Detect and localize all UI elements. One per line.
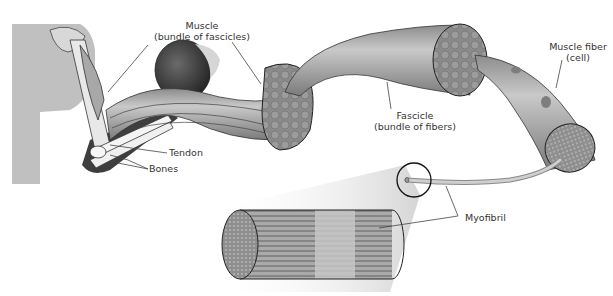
muscle-fiber-label: Muscle fiber (cell) (545, 41, 611, 63)
muscle-label-line1: Muscle (147, 20, 257, 31)
muscle-fiber-illustration (475, 55, 602, 179)
myofibril-label: Myofibril (465, 212, 506, 223)
muscle-fiber-label-line2: (cell) (545, 52, 611, 63)
muscle-label: Muscle (bundle of fascicles) (147, 20, 257, 42)
muscle-structure-diagram: Muscle (bundle of fascicles) Tendon Bone… (0, 0, 613, 296)
myofibril-illustration (213, 160, 560, 292)
muscle-fiber-label-line1: Muscle fiber (545, 41, 611, 52)
muscle-label-line2: (bundle of fascicles) (147, 31, 257, 42)
fascicle-leader-line (387, 82, 391, 109)
muscle-fiber-leader-line (556, 60, 562, 88)
bones-label: Bones (149, 163, 178, 174)
muscle-leader-line-2 (232, 42, 261, 84)
fascicle-label: Fascicle (bundle of fibers) (365, 110, 465, 132)
fascicle-label-line2: (bundle of fibers) (365, 121, 465, 132)
diagram-artwork (0, 0, 613, 296)
muscle-leader-line (108, 45, 148, 92)
fascicle-illustration (285, 24, 487, 96)
fascicle-label-line1: Fascicle (365, 110, 465, 121)
tendon-label: Tendon (169, 147, 203, 158)
